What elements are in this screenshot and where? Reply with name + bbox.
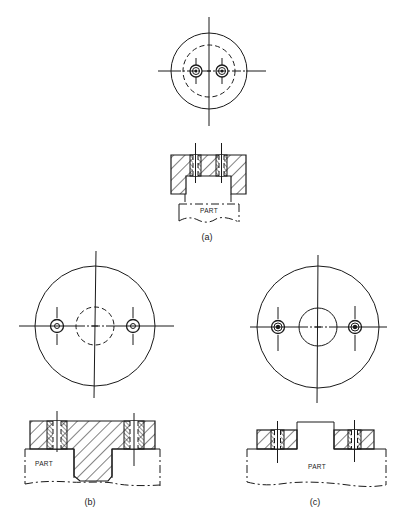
panel-c: PART (c): [247, 255, 387, 507]
panel-label-c: (c): [310, 497, 321, 507]
bushing-hole-icon: [272, 307, 285, 351]
bushing-hole-icon: [349, 306, 362, 351]
part-outline-right: [112, 449, 160, 478]
part-label: PART: [308, 463, 326, 470]
part-label: PART: [200, 207, 218, 214]
part-label: PART: [35, 460, 53, 467]
panel-label-b: (b): [85, 497, 96, 507]
part-break-line: [247, 482, 386, 487]
panel-b-section-view: PART: [25, 411, 160, 486]
panel-label-a: (a): [202, 232, 213, 242]
part-break-line: [179, 218, 239, 223]
technical-drawing: PART (a): [0, 0, 407, 526]
panel-c-top-view: [250, 255, 387, 403]
panel-c-section-view: PART: [247, 420, 386, 487]
panel-a: PART (a): [158, 17, 266, 242]
fixture-body: [171, 155, 246, 194]
part-break-line: [25, 481, 160, 485]
panel-b-top-view: [19, 251, 174, 398]
panel-a-section-view: PART: [171, 143, 246, 222]
vertical-centerline: [94, 251, 96, 398]
vertical-centerline: [317, 255, 318, 403]
panel-a-top-view: [158, 17, 266, 126]
panel-b: PART (b): [19, 251, 174, 507]
